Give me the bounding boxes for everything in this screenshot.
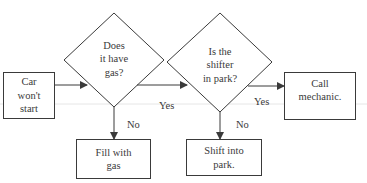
node-park-line-3: in park?: [203, 72, 237, 86]
node-start-label: Car won't start: [4, 73, 54, 118]
node-call-label: Call mechanic.: [285, 73, 355, 107]
node-gas-line-1: Does: [103, 39, 125, 53]
node-call-line-1: Call: [311, 77, 329, 91]
node-park-line-1: Is the: [208, 45, 231, 59]
node-start-line-3: start: [20, 102, 38, 116]
node-shift-label: Shift into park.: [187, 140, 261, 175]
node-fill-label: Fill with gas: [77, 140, 150, 178]
node-fill-line-2: gas: [107, 159, 121, 173]
edge-gas-yes-label: Yes: [159, 100, 174, 112]
node-gas-line-3: gas?: [105, 66, 124, 80]
node-shift-line-2: park.: [213, 158, 234, 172]
node-gas-decision-label: Does it have gas?: [84, 36, 144, 82]
edge-park-yes-label: Yes: [254, 96, 269, 108]
edge-gas-no-label: No: [127, 119, 140, 131]
node-shift-line-1: Shift into: [204, 144, 243, 158]
node-fill-line-1: Fill with: [96, 146, 132, 160]
node-park-decision-label: Is the shifter in park?: [190, 42, 250, 88]
node-start-line-2: won't: [18, 89, 41, 103]
edge-park-no-label: No: [236, 119, 249, 131]
node-start-line-1: Car: [21, 75, 36, 89]
node-call-line-2: mechanic.: [299, 90, 342, 104]
node-gas-line-2: it have: [100, 52, 128, 66]
node-park-line-2: shifter: [207, 58, 234, 72]
